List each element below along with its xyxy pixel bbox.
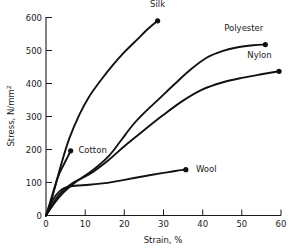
curve-polyester [46,45,265,216]
series-curves [46,21,279,216]
y-tick-label-200: 200 [26,145,42,155]
y-axis-title-group: Stress, N/mm2 [5,85,16,146]
x-tick-label-50: 50 [236,219,247,229]
y-axis-ticks [46,18,52,183]
y-axis-title-text: Stress, N/mm [6,89,16,146]
y-axis-tick-labels: 600 500 400 300 200 100 0 [26,13,42,221]
endpoint-dot-wool [183,167,188,172]
y-tick-label-400: 400 [26,79,42,89]
x-tick-label-10: 10 [80,219,91,229]
endpoint-dot-silk [155,18,160,23]
curve-silk [46,21,158,216]
x-tick-label-60: 60 [276,219,287,229]
y-tick-label-100: 100 [26,178,42,188]
endpoint-dot-nylon [276,69,281,74]
y-tick-label-500: 500 [26,46,42,56]
x-tick-label-40: 40 [197,219,208,229]
series-label-nylon: Nylon [247,50,271,60]
series-label-cotton: Cotton [78,145,106,155]
x-axis-title: Strain, % [144,235,183,245]
y-tick-label-300: 300 [26,112,42,122]
x-tick-label-0: 0 [43,219,48,229]
endpoint-dot-polyester [263,42,268,47]
x-axis-tick-labels: 0 10 20 30 40 50 60 [43,219,286,229]
series-label-polyester: Polyester [224,23,264,33]
series-labels: Silk Polyester Nylon Cotton Wool [78,0,271,174]
y-tick-label-0: 0 [37,211,42,221]
x-tick-label-20: 20 [119,219,130,229]
curve-wool [46,170,186,216]
y-axis-title: Stress, N/mm2 [5,85,16,146]
series-label-wool: Wool [196,164,217,174]
y-axis-title-superscript: 2 [5,85,12,89]
y-tick-label-600: 600 [26,13,42,23]
x-tick-label-30: 30 [158,219,169,229]
chart-svg: 600 500 400 300 200 100 0 0 10 20 30 40 … [0,0,293,249]
stress-strain-chart: 600 500 400 300 200 100 0 0 10 20 30 40 … [0,0,293,249]
series-label-silk: Silk [150,0,165,9]
x-axis-ticks [85,210,281,216]
endpoint-dot-cotton [68,148,73,153]
curve-nylon [46,71,279,215]
